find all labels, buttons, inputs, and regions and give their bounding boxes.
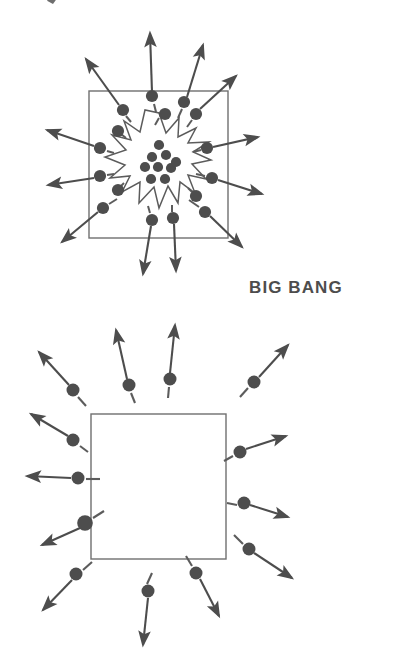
big-bang-caption: BIG BANG xyxy=(249,278,343,298)
panel-bottom-box xyxy=(91,414,226,559)
panel-bottom-expansion-arrows xyxy=(27,325,292,645)
panel-bottom-motion-trails xyxy=(78,387,248,584)
big-bang-figure-svg xyxy=(0,0,397,664)
figure-root: BIG BANG xyxy=(0,0,397,664)
panel-bottom-escaping-particles xyxy=(67,373,261,598)
panel-bottom xyxy=(27,325,292,645)
panel-top xyxy=(47,33,262,274)
